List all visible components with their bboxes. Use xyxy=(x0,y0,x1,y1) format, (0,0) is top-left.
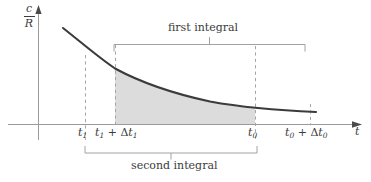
dt0-sub: 0 xyxy=(323,131,328,140)
second-integral-bracket xyxy=(85,146,257,160)
second-integral-label: second integral xyxy=(131,160,217,171)
plus-sign: + xyxy=(104,126,120,139)
figure-canvas: c R t t1 t1 + Δt1 t0 t0 + Δt0 first inte… xyxy=(0,0,371,182)
tick-label-t1-plus-dt1: t1 + Δt1 xyxy=(95,127,138,139)
first-integral-bracket xyxy=(114,37,305,52)
y-axis-label-denominator: R xyxy=(18,18,40,30)
tick-label-t0: t0 xyxy=(248,127,257,139)
dt1-sub: 1 xyxy=(133,131,138,140)
tick-label-t0-plus-dt0: t0 + Δt0 xyxy=(285,127,328,139)
tick-label-t0-subscript: 0 xyxy=(252,131,257,140)
tick-label-t1: t1 xyxy=(78,127,87,139)
first-integral-label: first integral xyxy=(168,22,238,33)
y-axis-label: c R xyxy=(18,3,40,29)
y-axis-label-numerator: c xyxy=(18,3,40,15)
plus-sign-2: + xyxy=(294,126,310,139)
tick-label-t1-subscript: 1 xyxy=(82,131,87,140)
x-axis-label: t xyxy=(355,126,359,137)
